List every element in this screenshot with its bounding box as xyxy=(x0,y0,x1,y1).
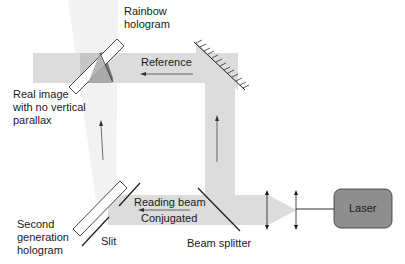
label-conjugated: Conjugated xyxy=(141,212,197,225)
diagram-canvas: Rainbow hologram Reference Real image wi… xyxy=(0,0,405,264)
label-laser: Laser xyxy=(349,202,377,214)
label-real-image: Real image with no vertical parallax xyxy=(13,88,86,127)
label-rainbow-hologram: Rainbow hologram xyxy=(124,5,170,31)
label-reading-beam: Reading beam xyxy=(134,196,206,209)
expanding-beam-cone xyxy=(268,195,297,225)
label-slit: Slit xyxy=(101,235,116,248)
label-second-generation-hologram: Second generation hologram xyxy=(17,218,69,257)
label-beam-splitter: Beam splitter xyxy=(187,237,251,250)
label-reference: Reference xyxy=(141,56,192,69)
